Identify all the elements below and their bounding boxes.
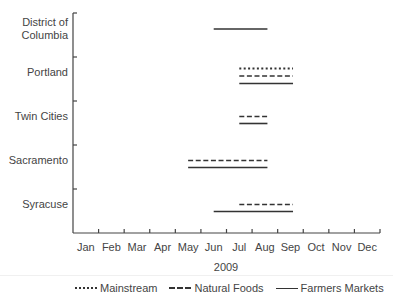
legend-separator	[0, 275, 393, 276]
y-label: Sacramento	[9, 154, 68, 167]
x-label: Jan	[77, 241, 95, 253]
range-lines	[188, 29, 293, 212]
x-label: Dec	[357, 241, 377, 253]
legend-label: Natural Foods	[194, 282, 263, 294]
legend-label: Mainstream	[100, 282, 157, 294]
x-label: May	[178, 241, 199, 253]
solid-line-icon	[276, 288, 298, 289]
legend-item-natural-foods: Natural Foods	[169, 282, 263, 294]
x-label: Oct	[307, 241, 324, 253]
y-axis	[73, 13, 77, 233]
x-label: Nov	[332, 241, 352, 253]
chart-plot-area	[0, 0, 393, 299]
x-label: Jul	[232, 241, 246, 253]
legend-item-mainstream: Mainstream	[75, 282, 157, 294]
x-label: Sep	[281, 241, 301, 253]
y-label: District ofColumbia	[22, 16, 68, 42]
y-label: Portland	[27, 66, 68, 79]
y-label: Twin Cities	[15, 110, 68, 123]
x-label: Feb	[102, 241, 121, 253]
legend: Mainstream Natural Foods Farmers Markets	[75, 282, 384, 294]
x-label: Mar	[127, 241, 146, 253]
x-axis-title: 2009	[214, 261, 238, 273]
x-label: Jun	[205, 241, 223, 253]
legend-label: Farmers Markets	[301, 282, 384, 294]
x-label: Aug	[255, 241, 275, 253]
legend-item-farmers-markets: Farmers Markets	[276, 282, 384, 294]
x-label: Apr	[154, 241, 171, 253]
dotted-line-icon	[75, 287, 97, 289]
dashed-line-icon	[169, 287, 191, 289]
y-label: Syracuse	[22, 198, 68, 211]
